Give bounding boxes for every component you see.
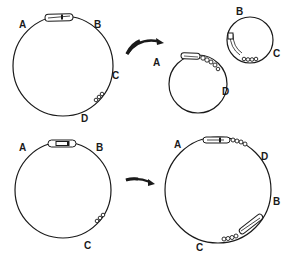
label-c: C bbox=[273, 48, 280, 59]
insertion-element bbox=[48, 140, 76, 147]
label-b: B bbox=[236, 6, 243, 17]
label-a: A bbox=[19, 142, 26, 153]
label-d: D bbox=[222, 86, 229, 97]
label-c: C bbox=[112, 70, 119, 81]
insertion-element bbox=[181, 53, 200, 60]
arrow-icon bbox=[127, 38, 164, 54]
label-a: A bbox=[19, 19, 26, 30]
label-c: C bbox=[196, 242, 203, 253]
plasmid-bottom-right: A D B C bbox=[165, 137, 280, 253]
label-b: B bbox=[273, 196, 280, 207]
plasmid-top-middle: A D bbox=[153, 53, 229, 113]
plasmid-top-right: B C bbox=[227, 6, 280, 63]
label-c: C bbox=[84, 240, 91, 251]
label-b: B bbox=[94, 19, 101, 30]
label-d: D bbox=[81, 113, 88, 124]
insertion-element bbox=[45, 14, 73, 22]
bead-cluster bbox=[242, 57, 258, 61]
plasmid-top-left: A B C D bbox=[13, 14, 119, 124]
arrow-icon bbox=[126, 179, 155, 186]
plasmid-bottom-left: A B C bbox=[15, 140, 111, 251]
bead-cluster-top bbox=[231, 138, 247, 146]
insertion-element-top bbox=[203, 137, 230, 143]
label-a: A bbox=[174, 139, 181, 150]
label-b: B bbox=[96, 142, 103, 153]
label-d: D bbox=[261, 151, 268, 162]
diagram-canvas: A B C D A D bbox=[0, 0, 293, 261]
label-a: A bbox=[153, 57, 160, 68]
